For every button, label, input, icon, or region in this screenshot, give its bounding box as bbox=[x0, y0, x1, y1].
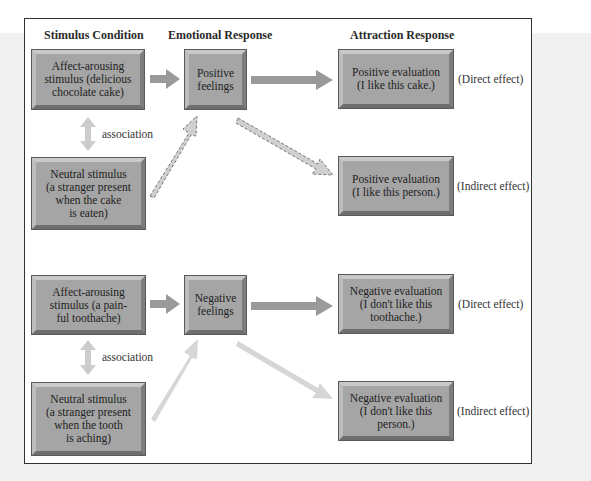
label-direct-effect-negative: (Direct effect) bbox=[458, 298, 523, 310]
association-double-arrow-positive bbox=[80, 117, 96, 151]
arrow-positive-feelings-to-direct-eval bbox=[251, 70, 333, 90]
arrow-affect-to-negative-feelings bbox=[150, 294, 180, 314]
arrow-affect-to-positive-feelings bbox=[150, 69, 180, 89]
dashed-arrow-neutral-to-positive-feelings bbox=[150, 116, 197, 198]
box-negative-eval-person: Negative evaluation (I don't like this p… bbox=[339, 382, 453, 440]
box-text: Positive evaluation (I like this person.… bbox=[352, 173, 440, 199]
box-text: Affect-arousing stimulus (a pain- ful to… bbox=[50, 286, 127, 325]
box-negative-eval-toothache: Negative evaluation (I don't like this t… bbox=[339, 275, 453, 333]
box-text: Neutral stimulus (a stranger present whe… bbox=[46, 168, 131, 220]
association-double-arrow-negative bbox=[80, 340, 96, 375]
label-direct-effect-positive: (Direct effect) bbox=[458, 73, 523, 85]
dashed-arrow-positive-feelings-to-indirect-eval bbox=[236, 118, 333, 175]
box-text: Affect-arousing stimulus (delicious choc… bbox=[44, 60, 131, 99]
box-text: Negative evaluation (I don't like this p… bbox=[350, 392, 442, 431]
label-association-positive: association bbox=[102, 128, 153, 140]
box-positive-eval-cake: Positive evaluation (I like this cake.) bbox=[339, 50, 453, 108]
arrow-negative-feelings-to-direct-eval bbox=[251, 296, 333, 316]
light-arrow-neutral-to-negative-feelings bbox=[151, 339, 198, 422]
label-indirect-effect-negative: (Indirect effect) bbox=[457, 405, 529, 417]
light-arrow-negative-feelings-to-indirect-eval bbox=[236, 341, 333, 399]
label-association-negative: association bbox=[102, 351, 153, 363]
box-positive-feelings: Positive feelings bbox=[185, 50, 246, 109]
box-text: Positive evaluation (I like this cake.) bbox=[352, 66, 440, 92]
box-text: Neutral stimulus (a stranger present whe… bbox=[46, 393, 131, 445]
box-positive-eval-person: Positive evaluation (I like this person.… bbox=[339, 157, 453, 215]
box-negative-feelings: Negative feelings bbox=[185, 276, 246, 334]
label-indirect-effect-positive: (Indirect effect) bbox=[457, 180, 529, 192]
box-affect-stimulus-cake: Affect-arousing stimulus (delicious choc… bbox=[32, 50, 144, 109]
box-text: Negative feelings bbox=[195, 292, 237, 318]
box-neutral-stimulus-tooth: Neutral stimulus (a stranger present whe… bbox=[32, 383, 145, 455]
box-neutral-stimulus-cake: Neutral stimulus (a stranger present whe… bbox=[32, 158, 145, 229]
box-text: Negative evaluation (I don't like this t… bbox=[350, 285, 442, 324]
box-text: Positive feelings bbox=[197, 67, 234, 93]
box-affect-stimulus-toothache: Affect-arousing stimulus (a pain- ful to… bbox=[32, 276, 145, 334]
